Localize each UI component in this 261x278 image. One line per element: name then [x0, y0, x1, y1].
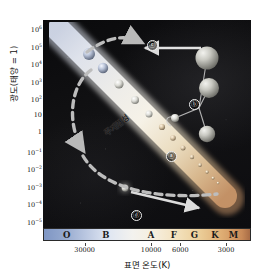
main-sequence-stars	[83, 48, 219, 184]
starfield-background	[43, 20, 251, 228]
x-axis-label: 표면 온도(K)	[43, 258, 251, 270]
marker-c: ⓒ	[147, 40, 158, 51]
main-sequence-band	[57, 28, 227, 198]
y-tick-label: 10−2	[14, 164, 42, 174]
x-axis-ticks: 300001000060003000	[43, 243, 251, 255]
y-tick-label: 106	[14, 24, 42, 34]
spectral-class-f: F	[171, 230, 177, 241]
x-tick-label: 3000	[218, 246, 235, 254]
x-tick-label: 6000	[172, 246, 189, 254]
spectral-class-o: O	[63, 230, 70, 241]
arrow-descend-left	[73, 70, 91, 150]
spectral-class-m: M	[229, 230, 238, 241]
arrow-giant-to-dwarf	[131, 192, 199, 208]
spectral-class-a: A	[148, 230, 155, 241]
y-tick-label: 104	[14, 59, 42, 69]
arrow-to-white-dwarf	[83, 156, 217, 196]
y-tick-label: 10−5	[14, 217, 42, 227]
hr-diagram-figure: 광도(태양 = 1) 10610510410310210110−110−210−…	[0, 0, 261, 278]
white-dwarf-star	[122, 185, 129, 192]
y-axis-ticks: 10610510410310210110−110−210−310−410−5	[14, 24, 42, 224]
giant-star-cluster	[167, 47, 219, 143]
arrow-main-to-giant	[87, 38, 141, 52]
plot-panel: 주계열성 ⓒ ⓑ ⓐ ⓓ	[43, 20, 251, 228]
y-tick-label: 105	[14, 42, 42, 52]
y-tick-label: 10−1	[14, 147, 42, 157]
evolution-arrows	[73, 38, 217, 208]
y-tick-label: 103	[14, 77, 42, 87]
main-sequence-label: 주계열성	[102, 112, 131, 138]
marker-a: ⓐ	[166, 151, 177, 162]
x-tick-label: 10000	[141, 246, 162, 254]
y-tick-label: 102	[14, 94, 42, 104]
y-tick-label: 10−4	[14, 199, 42, 209]
y-tick-label: 10−3	[14, 182, 42, 192]
y-tick-label: 10	[14, 112, 42, 119]
spectral-class-k: K	[211, 230, 218, 241]
marker-d: ⓓ	[131, 210, 142, 221]
hr-diagram-plot	[49, 22, 245, 218]
x-tick-label: 30000	[74, 246, 95, 254]
y-tick-label: 1	[14, 129, 42, 136]
marker-b: ⓑ	[189, 99, 200, 110]
spectral-class-b: B	[102, 230, 109, 241]
spectral-class-strip: OBAFGKM	[43, 228, 251, 241]
spectral-class-g: G	[191, 230, 198, 241]
